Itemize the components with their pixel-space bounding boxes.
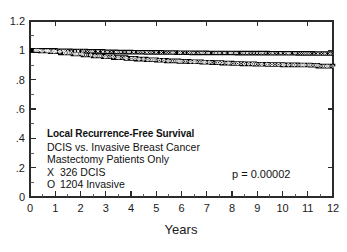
legend-marker-x-icon: X xyxy=(47,166,57,179)
x-tick-label: 3 xyxy=(103,202,109,214)
p-value-annotation: p = 0.00002 xyxy=(232,168,290,181)
x-tick-label: 11 xyxy=(302,202,313,214)
x-tick-label: 12 xyxy=(327,202,339,214)
y-tick-label: 0 xyxy=(19,191,25,203)
legend-entry-invasive: O 1204 Invasive xyxy=(47,178,200,191)
legend-marker-o-icon: O xyxy=(47,178,57,191)
y-tick-label: 1 xyxy=(19,44,25,56)
y-axis-major-ticks xyxy=(30,21,36,197)
x-tick-label: 0 xyxy=(27,202,33,214)
annotation-subtitle: DCIS vs. Invasive Breast Cancer xyxy=(47,141,200,154)
survival-curve-figure: 1.2 1 .8 .6 .4 .2 0 xyxy=(0,0,347,252)
y-tick-label: .8 xyxy=(16,74,25,86)
x-axis-tick-labels: 0 1 2 3 4 5 6 7 8 9 10 11 12 xyxy=(27,202,339,214)
y-tick-label: 1.2 xyxy=(10,15,25,27)
x-tick-label: 7 xyxy=(204,202,210,214)
annotation-subtitle-2: Mastectomy Patients Only xyxy=(47,153,200,166)
x-tick-label: 1 xyxy=(52,202,58,214)
y-axis-tick-labels: 1.2 1 .8 .6 .4 .2 0 xyxy=(10,15,25,203)
x-tick-label: 5 xyxy=(153,202,159,214)
x-axis-title: Years xyxy=(165,222,198,237)
y-tick-label: .4 xyxy=(16,132,25,144)
legend-label-invasive: 1204 Invasive xyxy=(60,178,125,190)
chart-annotation-block: Local Recurrence-Free Survival DCIS vs. … xyxy=(47,128,200,191)
y-tick-label: .2 xyxy=(16,162,25,174)
x-tick-label: 10 xyxy=(276,202,288,214)
x-tick-label: 2 xyxy=(77,202,83,214)
x-tick-label: 4 xyxy=(128,202,134,214)
x-axis-top-ticks xyxy=(55,21,308,26)
survival-curves xyxy=(30,49,334,67)
legend-entry-dcis: X 326 DCIS xyxy=(47,166,200,179)
x-axis-major-ticks xyxy=(30,191,333,197)
legend-label-dcis: 326 DCIS xyxy=(60,166,106,178)
x-tick-label: 9 xyxy=(254,202,260,214)
x-tick-label: 6 xyxy=(178,202,184,214)
annotation-title: Local Recurrence-Free Survival xyxy=(47,128,200,141)
plot-canvas: 1.2 1 .8 .6 .4 .2 0 xyxy=(0,0,347,252)
x-tick-label: 8 xyxy=(229,202,235,214)
y-tick-label: .6 xyxy=(16,103,25,115)
